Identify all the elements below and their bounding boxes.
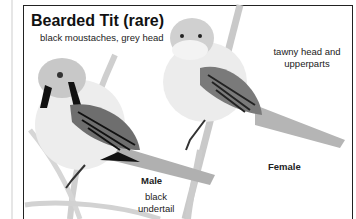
male-tail-label: black undertail xyxy=(138,191,174,215)
female-bird-icon xyxy=(163,18,345,150)
male-head-label: black moustaches, grey head xyxy=(40,32,164,44)
male-label: Male xyxy=(141,175,162,187)
page-title: Bearded Tit (rare) xyxy=(31,12,164,30)
female-head-label: tawny head and upperparts xyxy=(262,46,352,70)
female-label: Female xyxy=(268,161,301,173)
